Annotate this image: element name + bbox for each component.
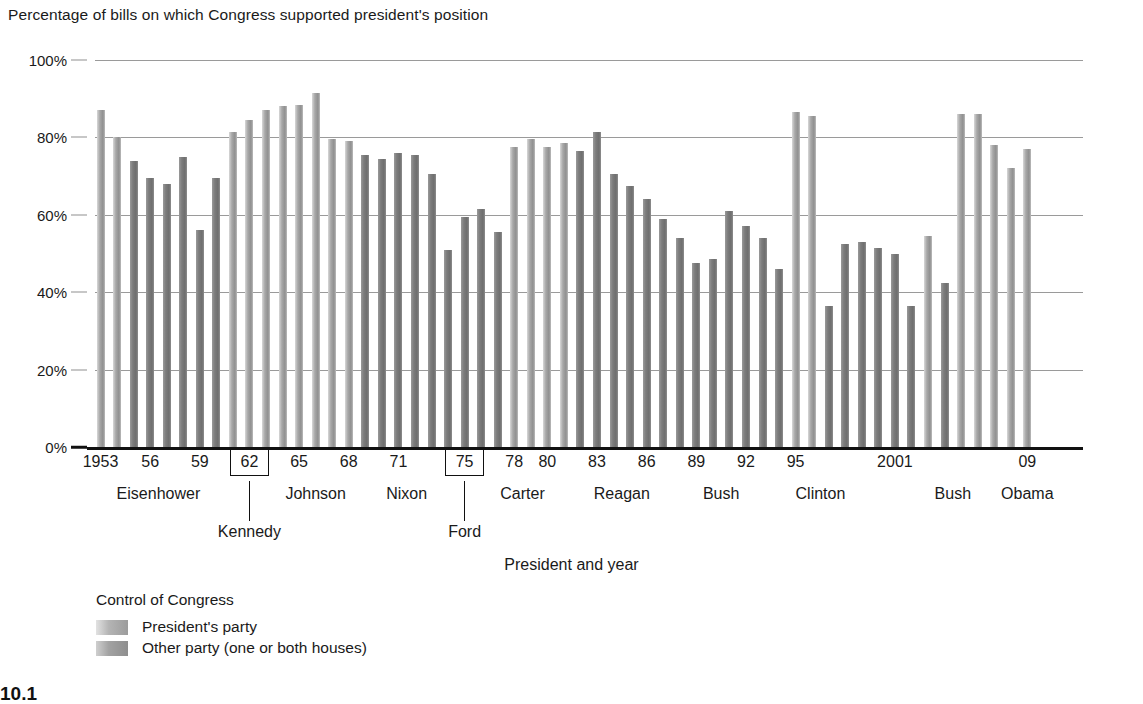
bar-2006 [974, 114, 982, 447]
bar-2008 [1007, 168, 1015, 447]
x-tick-label-1959: 59 [191, 453, 209, 471]
president-label-obama: Obama [1001, 485, 1053, 503]
bar-2009 [1023, 149, 1031, 447]
legend-items: President's partyOther party (one or bot… [96, 618, 367, 657]
bar-1982 [576, 151, 584, 447]
brace-kennedy [230, 450, 269, 476]
brace-ford [445, 450, 484, 476]
y-tick-mark-100 [71, 60, 87, 61]
bar-2005 [957, 114, 965, 447]
bar-2002 [907, 306, 915, 447]
bar-1960 [212, 178, 220, 447]
x-tick-label-1995: 95 [787, 453, 805, 471]
bar-1968 [345, 141, 353, 447]
bar-1984 [610, 174, 618, 447]
bar-1974 [444, 250, 452, 447]
bar-1965 [295, 105, 303, 447]
bar-1975 [461, 217, 469, 447]
legend-swatch-other [96, 641, 128, 656]
president-label-ford: Ford [448, 523, 481, 541]
bar-1973 [428, 174, 436, 447]
legend-item-other: Other party (one or both houses) [96, 639, 367, 657]
bar-1958 [179, 157, 187, 447]
president-label-reagan: Reagan [594, 485, 650, 503]
x-axis-label: President and year [0, 556, 1143, 574]
x-tick-label-1956: 56 [141, 453, 159, 471]
bar-1977 [494, 232, 502, 447]
bar-1993 [759, 238, 767, 447]
y-tick-label-20: 20% [37, 361, 67, 378]
x-tick-label-1965: 65 [290, 453, 308, 471]
bars-container [95, 60, 1083, 447]
y-tick-mark-60 [71, 214, 87, 215]
bar-2000 [874, 248, 882, 447]
chart-title: Percentage of bills on which Congress su… [8, 6, 488, 24]
x-tick-label-1983: 83 [588, 453, 606, 471]
plot-area [95, 60, 1083, 447]
bar-1987 [659, 219, 667, 447]
x-tick-label-2001: 2001 [877, 453, 913, 471]
legend: Control of Congress President's partyOth… [96, 591, 367, 660]
legend-title: Control of Congress [96, 591, 367, 609]
president-label-carter: Carter [500, 485, 544, 503]
president-label-bush: Bush [935, 485, 971, 503]
bar-1967 [328, 139, 336, 447]
x-tick-label-1986: 86 [638, 453, 656, 471]
y-tick-label-40: 40% [37, 284, 67, 301]
y-tick-label-100: 100% [29, 52, 67, 69]
x-tick-label-1978: 78 [505, 453, 523, 471]
bar-1970 [378, 159, 386, 447]
bar-1995 [792, 112, 800, 447]
bar-2003 [924, 236, 932, 447]
bar-1998 [841, 244, 849, 447]
x-tick-label-1953: 1953 [83, 453, 119, 471]
president-label-kennedy: Kennedy [218, 523, 281, 541]
x-tick-label-2009: 09 [1018, 453, 1036, 471]
bar-1986 [643, 199, 651, 447]
bar-1976 [477, 209, 485, 447]
bar-1978 [510, 147, 518, 447]
president-label-bush: Bush [703, 485, 739, 503]
bar-1957 [163, 184, 171, 447]
bar-2007 [990, 145, 998, 447]
brace-stem-ford [464, 481, 466, 521]
bar-1980 [543, 147, 551, 447]
y-tick-mark-20 [71, 369, 87, 370]
president-label-nixon: Nixon [386, 485, 427, 503]
legend-swatch-pres [96, 620, 128, 635]
bar-1989 [692, 263, 700, 447]
bar-1959 [196, 230, 204, 447]
y-tick-label-60: 60% [37, 206, 67, 223]
bar-1954 [113, 137, 121, 447]
president-label-eisenhower: Eisenhower [117, 485, 201, 503]
x-tick-label-1971: 71 [389, 453, 407, 471]
bar-1961 [229, 132, 237, 447]
y-tick-mark-0 [71, 446, 87, 449]
bar-1988 [676, 238, 684, 447]
y-tick-mark-40 [71, 292, 87, 293]
bar-1955 [130, 161, 138, 447]
bar-1953 [97, 110, 105, 447]
bar-1991 [725, 211, 733, 447]
bar-1992 [742, 226, 750, 447]
bar-1999 [858, 242, 866, 447]
bar-2001 [891, 254, 899, 448]
bar-1966 [312, 93, 320, 447]
bar-1956 [146, 178, 154, 447]
bar-1996 [808, 116, 816, 447]
x-tick-label-1968: 68 [340, 453, 358, 471]
figure-caption: 10.1 [0, 683, 37, 704]
y-axis: 100%80%60%40%20%0% [0, 60, 95, 447]
bar-1963 [262, 110, 270, 447]
bar-1979 [527, 139, 535, 447]
legend-item-pres: President's party [96, 618, 367, 636]
legend-label-other: Other party (one or both houses) [142, 639, 367, 657]
bar-1972 [411, 155, 419, 447]
bar-1997 [825, 306, 833, 447]
bar-1981 [560, 143, 568, 447]
x-tick-label-1992: 92 [737, 453, 755, 471]
bar-1971 [394, 153, 402, 447]
bar-1964 [279, 106, 287, 447]
bar-1962 [245, 120, 253, 447]
